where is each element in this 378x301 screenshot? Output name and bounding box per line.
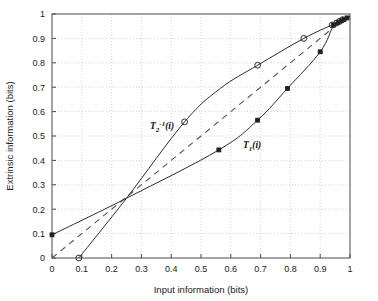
data-point-t1	[217, 148, 221, 152]
chart-background	[0, 0, 378, 301]
y-axis-label: Extrinsic information (bits)	[4, 81, 15, 190]
t2-label-arg: (i)	[165, 121, 174, 132]
x-tick-label: 0.5	[195, 264, 208, 274]
x-tick-label: 0.1	[76, 264, 89, 274]
y-tick-label: 0.5	[32, 131, 45, 141]
exit-chart: 00.10.20.30.40.50.60.70.80.91 00.10.20.3…	[0, 0, 378, 301]
x-axis-label: Input information (bits)	[154, 284, 249, 295]
data-point-t1	[50, 233, 54, 237]
y-tick-label: 0.7	[32, 83, 45, 93]
y-tick-label: 0.9	[32, 34, 45, 44]
y-tick-label: 1	[40, 9, 45, 19]
x-tick-label: 0.6	[225, 264, 238, 274]
x-tick-label: 0.8	[284, 264, 297, 274]
data-point-t1	[318, 50, 322, 54]
x-tick-label: 0	[49, 264, 54, 274]
y-tick-label: 0.4	[32, 156, 45, 166]
y-tick-label: 0.6	[32, 107, 45, 117]
x-tick-label: 0.3	[135, 264, 148, 274]
y-tick-label: 0.2	[32, 205, 45, 215]
x-tick-label: 0.2	[105, 264, 118, 274]
y-tick-label: 0.3	[32, 180, 45, 190]
t1-label-arg: (i)	[252, 140, 261, 151]
y-tick-label: 0	[40, 253, 45, 263]
x-tick-label: 0.4	[165, 264, 178, 274]
x-tick-label: 0.9	[314, 264, 327, 274]
data-point-t1	[285, 86, 289, 90]
y-tick-label: 0.8	[32, 58, 45, 68]
y-tick-label: 0.1	[32, 229, 45, 239]
data-point-t1	[256, 118, 260, 122]
x-tick-label: 0.7	[254, 264, 267, 274]
x-tick-label: 1	[347, 264, 352, 274]
